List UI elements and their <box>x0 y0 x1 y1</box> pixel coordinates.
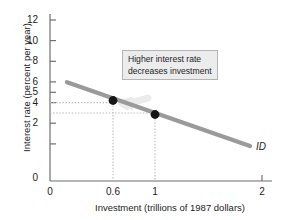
data-point-0.6-6 <box>109 96 118 105</box>
guide-lines <box>50 103 155 181</box>
annotation-line-1: Higher interest rate <box>128 54 213 66</box>
x-tick-label-2: 2 <box>249 187 275 197</box>
investment-demand-chart: Interest rate (percent per year) 12 10 8… <box>0 0 286 220</box>
y-tick-label-12: 12 <box>16 15 38 25</box>
y-tick-label-5: 5 <box>16 87 38 97</box>
x-tick-label-0: 0 <box>37 187 63 197</box>
annotation-line-2: decreases investment <box>128 66 213 78</box>
y-tick-label-10: 10 <box>16 36 38 46</box>
y-tick-label-4: 4 <box>16 98 38 108</box>
data-point-1-5 <box>151 110 160 119</box>
annotation-text-box: Higher interest rate decreases investmen… <box>122 50 218 80</box>
x-tick-label-0.6: 0.6 <box>100 187 126 197</box>
y-tick-label-2: 2 <box>16 118 38 128</box>
curve-label-id: ID <box>256 141 266 152</box>
y-axis-ticks <box>50 20 56 144</box>
x-axis-label: Investment (trillions of 1987 dollars) <box>60 202 280 213</box>
y-tick-label-8: 8 <box>16 56 38 66</box>
y-tick-label-0: 0 <box>16 173 38 183</box>
x-tick-label-1: 1 <box>142 187 168 197</box>
